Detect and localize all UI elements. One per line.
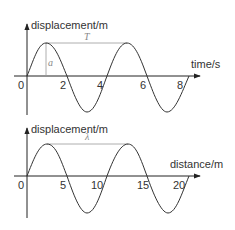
tick-label: 15 <box>137 179 149 191</box>
sine-wave <box>27 43 189 112</box>
tick-label: 2 <box>60 79 66 91</box>
x-axis-label: distance/m <box>170 158 223 170</box>
period-label: T <box>84 31 91 42</box>
wave-diagrams: displacement/m time/s 0 2 4 6 8 T a disp… <box>0 0 235 230</box>
y-axis-label: displacement/m <box>31 123 108 135</box>
tick-label: 6 <box>140 79 146 91</box>
tick-label: 0 <box>18 179 24 191</box>
tick-label: 8 <box>177 79 183 91</box>
time-graph: displacement/m time/s 0 2 4 6 8 T a <box>14 19 221 115</box>
tick-label: 10 <box>91 179 103 191</box>
x-axis-label: time/s <box>191 58 221 70</box>
amplitude-label: a <box>48 57 53 68</box>
y-axis-label: displacement/m <box>31 19 108 31</box>
sine-wave <box>27 144 189 213</box>
tick-label: 5 <box>60 179 66 191</box>
tick-label: 0 <box>18 79 24 91</box>
distance-graph: displacement/m distance/m 0 5 10 15 20 λ <box>14 123 223 218</box>
wavelength-label: λ <box>84 131 90 142</box>
